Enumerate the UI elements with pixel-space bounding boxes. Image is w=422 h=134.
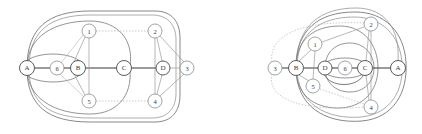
right-edge-2-c [366, 31, 369, 61]
right-edge-1-5 [313, 51, 315, 79]
right-node-D-label: D [322, 64, 327, 72]
left-node-D[interactable]: D [156, 61, 170, 75]
graph-figure: A B C D 1 2 3 [0, 0, 422, 134]
left-node-C-label: C [122, 64, 127, 72]
right-node-1[interactable]: 1 [308, 37, 322, 51]
right-graph-panel: 3 B D 6 C A 1 [268, 8, 406, 121]
right-node-B[interactable]: B [289, 61, 304, 76]
right-edge-1-2 [322, 27, 364, 42]
left-node-2-label: 2 [153, 28, 156, 35]
left-node-6[interactable]: 6 [50, 61, 64, 75]
right-node-A-label: A [395, 64, 400, 72]
right-node-5-label: 5 [311, 83, 314, 90]
right-node-1-label: 1 [313, 41, 316, 48]
left-node-3-label: 3 [185, 65, 188, 72]
left-graph-panel: A B C D 1 2 3 [20, 11, 195, 122]
left-node-C[interactable]: C [117, 61, 132, 76]
right-node-D[interactable]: D [318, 61, 332, 75]
left-edge-4-d [157, 75, 162, 94]
right-node-3-label: 3 [273, 65, 276, 72]
left-node-B-label: B [76, 64, 81, 72]
diagram-canvas: A B C D 1 2 3 [0, 0, 422, 134]
left-node-3[interactable]: 3 [180, 61, 194, 75]
right-node-A[interactable]: A [391, 61, 406, 76]
left-edge-b-1 [74, 37, 85, 62]
left-node-5[interactable]: 5 [82, 94, 96, 108]
left-node-2[interactable]: 2 [148, 24, 162, 38]
right-node-6[interactable]: 6 [338, 61, 352, 75]
right-node-B-label: B [294, 64, 299, 72]
right-node-5[interactable]: 5 [306, 79, 320, 93]
left-node-1-label: 1 [87, 28, 90, 35]
left-node-B[interactable]: B [71, 61, 86, 76]
right-edge-b-1 [299, 50, 311, 61]
left-node-A[interactable]: A [20, 61, 35, 76]
left-edge-2-d [157, 38, 162, 61]
left-edge-b-5 [74, 74, 85, 95]
right-node-4[interactable]: 4 [364, 100, 378, 114]
left-node-1[interactable]: 1 [82, 24, 96, 38]
right-node-C[interactable]: C [358, 61, 373, 76]
right-edge-b-5 [299, 75, 309, 81]
right-node-2[interactable]: 2 [364, 17, 378, 31]
left-node-5-label: 5 [87, 98, 90, 105]
left-node-4[interactable]: 4 [148, 94, 162, 108]
right-node-3[interactable]: 3 [268, 61, 282, 75]
left-node-A-label: A [24, 64, 29, 72]
right-node-C-label: C [363, 64, 368, 72]
right-node-2-label: 2 [369, 21, 372, 28]
left-node-D-label: D [160, 64, 165, 72]
